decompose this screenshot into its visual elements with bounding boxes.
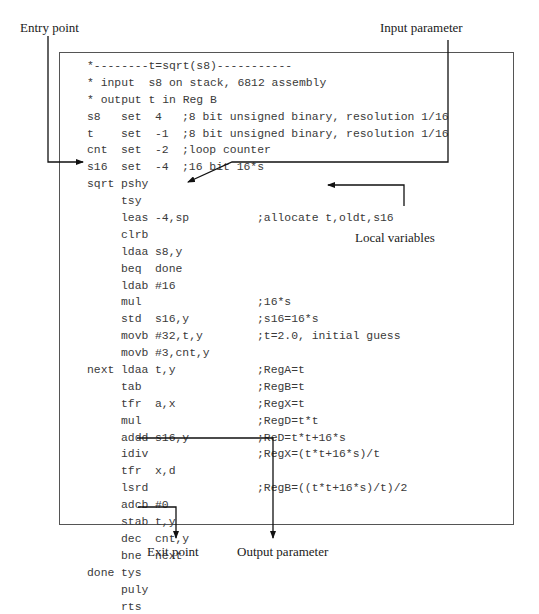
- output-parameter-arrow: [137, 438, 273, 538]
- code-line: puly: [87, 582, 449, 599]
- code-line: rts: [87, 599, 449, 614]
- code-opcode: puly: [121, 582, 155, 599]
- exit-point-arrow: [138, 507, 176, 538]
- code-opcode: rts: [121, 599, 155, 614]
- local-variables-arrow: [328, 185, 404, 206]
- entry-point-arrow: [48, 36, 83, 162]
- input-parameter-arrow: [188, 40, 448, 182]
